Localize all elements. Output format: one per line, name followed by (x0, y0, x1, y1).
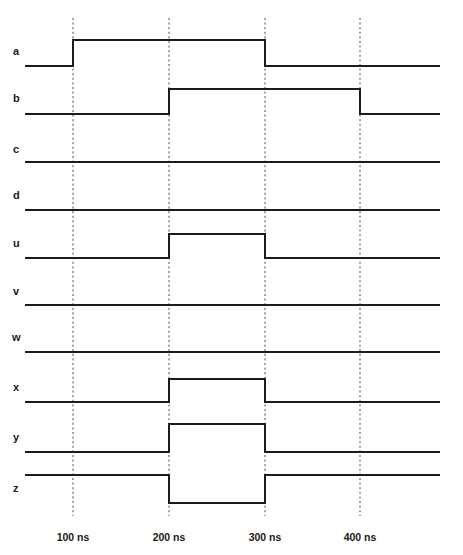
signal-label-y: y (13, 431, 20, 443)
time-axis-label-100ns: 100 ns (57, 531, 90, 543)
waveform-traces (25, 40, 440, 503)
time-axis-label-300ns: 300 ns (249, 531, 282, 543)
signal-label-d: d (13, 189, 20, 201)
timing-diagram: abcduvwxyz 100 ns200 ns300 ns400 ns (0, 0, 463, 555)
waveform-signal-x (25, 379, 440, 402)
time-axis-label-400ns: 400 ns (344, 531, 377, 543)
signal-label-a: a (13, 45, 20, 57)
time-axis-labels: 100 ns200 ns300 ns400 ns (57, 531, 377, 543)
waveform-signal-u (25, 234, 440, 258)
waveform-signal-a (25, 40, 440, 66)
waveform-signal-b (25, 89, 440, 114)
signal-label-v: v (13, 285, 20, 297)
time-axis-label-200ns: 200 ns (153, 531, 186, 543)
waveform-signal-y (25, 424, 440, 452)
signal-label-c: c (13, 143, 19, 155)
signal-label-z: z (13, 482, 19, 494)
waveform-signal-z (25, 475, 440, 503)
timing-diagram-canvas: abcduvwxyz 100 ns200 ns300 ns400 ns (0, 0, 463, 555)
signal-label-x: x (13, 381, 20, 393)
signal-label-w: w (11, 331, 21, 343)
signal-name-labels: abcduvwxyz (11, 45, 21, 494)
signal-label-u: u (13, 237, 20, 249)
time-gridlines (73, 18, 360, 516)
signal-label-b: b (13, 92, 20, 104)
